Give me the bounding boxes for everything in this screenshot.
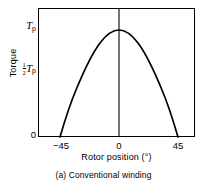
y-tick-label-zero: 0: [0, 129, 36, 140]
x-axis-title: Rotor position (°): [38, 152, 195, 162]
figure-conventional-winding: Torque Tp 12Tp 0 −45 0 45 Rotor position…: [0, 0, 207, 189]
figure-caption: (a) Conventional winding: [0, 170, 207, 180]
x-tick-label-neg45: −45: [46, 140, 76, 151]
x-tick-label-45: 45: [163, 140, 193, 151]
y-tick-label-peak: Tp: [0, 20, 36, 32]
x-tick-label-0: 0: [104, 140, 134, 151]
fraction-one-half: 12: [23, 62, 26, 77]
y-tick-label-half-peak: 12Tp: [0, 62, 36, 77]
plot-canvas: [38, 8, 195, 137]
